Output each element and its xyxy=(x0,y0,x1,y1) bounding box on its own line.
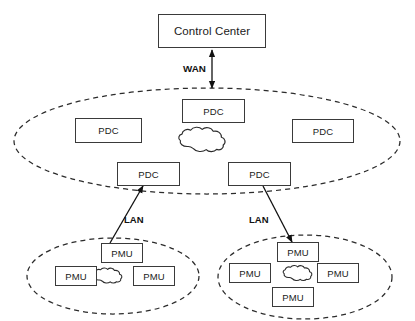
node-pmu-left-east-label: PMU xyxy=(143,271,164,282)
network-diagram: Control Center WAN PDC PDC PDC PDC PDC L… xyxy=(0,0,415,321)
node-pdc-bottom-left[interactable]: PDC xyxy=(117,162,180,186)
node-pdc-bottom-right-label: PDC xyxy=(249,169,269,180)
node-pdc-right[interactable]: PDC xyxy=(292,119,354,143)
node-pmu-right-east[interactable]: PMU xyxy=(317,263,359,283)
node-pmu-right-bottom-label: PMU xyxy=(282,292,303,303)
node-pmu-left-top-label: PMU xyxy=(111,248,132,259)
node-control-center[interactable]: Control Center xyxy=(158,14,266,48)
node-pmu-left-west[interactable]: PMU xyxy=(55,266,97,286)
node-pmu-right-top[interactable]: PMU xyxy=(277,242,319,262)
node-pdc-top-center[interactable]: PDC xyxy=(182,99,245,123)
lan-left-cloud-icon xyxy=(93,268,122,283)
node-pdc-bottom-left-label: PDC xyxy=(138,169,158,180)
node-pmu-right-bottom[interactable]: PMU xyxy=(272,287,314,307)
edge-label-lan-right: LAN xyxy=(249,214,269,225)
node-pdc-top-center-label: PDC xyxy=(203,106,223,117)
edge-label-wan: WAN xyxy=(183,63,206,74)
node-pmu-left-west-label: PMU xyxy=(65,271,86,282)
node-pmu-right-east-label: PMU xyxy=(327,268,348,279)
node-pmu-right-top-label: PMU xyxy=(287,247,308,258)
node-pmu-left-east[interactable]: PMU xyxy=(133,266,175,286)
lan-right-cloud-icon xyxy=(283,265,312,280)
node-pmu-right-west-label: PMU xyxy=(239,268,260,279)
node-pdc-left-label: PDC xyxy=(98,125,118,136)
node-pdc-bottom-right[interactable]: PDC xyxy=(228,162,291,186)
node-pmu-right-west[interactable]: PMU xyxy=(229,263,271,283)
node-control-center-label: Control Center xyxy=(174,25,250,37)
node-pdc-right-label: PDC xyxy=(313,126,333,137)
wan-cloud-icon xyxy=(179,127,225,151)
edge-label-lan-left: LAN xyxy=(124,214,144,225)
node-pmu-left-top[interactable]: PMU xyxy=(101,243,143,263)
node-pdc-left[interactable]: PDC xyxy=(75,118,142,143)
